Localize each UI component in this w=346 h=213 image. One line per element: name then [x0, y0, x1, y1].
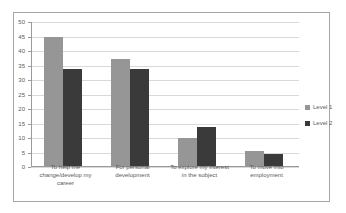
bar-level-1-1	[44, 37, 63, 166]
y-tick-mark-15	[28, 124, 31, 125]
y-tick-label-25: 25	[18, 92, 25, 98]
y-tick-label-50: 50	[18, 19, 25, 25]
y-tick-mark-5	[28, 153, 31, 154]
y-tick-mark-45	[28, 37, 31, 38]
y-tick-mark-20	[28, 109, 31, 110]
y-tick-mark-35	[28, 66, 31, 67]
legend-entry-2[interactable]: Level 2	[305, 120, 346, 126]
legend-swatch-icon-2	[305, 121, 310, 126]
y-tick-mark-40	[28, 51, 31, 52]
legend-swatch-icon-1	[305, 105, 310, 110]
y-tick-mark-30	[28, 80, 31, 81]
y-tick-mark-25	[28, 95, 31, 96]
bar-level-1-3	[178, 138, 197, 166]
bar-group-2	[99, 22, 166, 166]
y-tick-label-30: 30	[18, 77, 25, 83]
y-tick-mark-50	[28, 22, 31, 23]
plot-area: 50454035302520151050	[31, 22, 299, 167]
y-tick-mark-10	[28, 138, 31, 139]
bar-level-2-1	[63, 69, 82, 166]
bar-group-4	[233, 22, 300, 166]
y-tick-label-45: 45	[18, 34, 25, 40]
y-tick-label-15: 15	[18, 121, 25, 127]
y-tick-label-5: 5	[22, 150, 25, 156]
bar-level-1-2	[111, 59, 130, 166]
legend-label-2: Level 2	[313, 120, 332, 126]
bar-group-1	[32, 22, 99, 166]
legend-label-1: Level 1	[313, 104, 332, 110]
bar-group-3	[166, 22, 233, 166]
y-tick-label-20: 20	[18, 106, 25, 112]
legend-entry-1[interactable]: Level 1	[305, 104, 346, 110]
bars-layer	[32, 22, 299, 166]
y-tick-label-10: 10	[18, 135, 25, 141]
chart-container: 50454035302520151050 To help me change/d…	[13, 12, 330, 202]
y-tick-label-40: 40	[18, 48, 25, 54]
bar-level-2-3	[197, 127, 216, 166]
chart-legend: Level 1Level 2	[305, 104, 346, 136]
category-label-4: To move into employment	[225, 163, 308, 179]
y-tick-label-35: 35	[18, 63, 25, 69]
bar-level-2-2	[130, 69, 149, 166]
